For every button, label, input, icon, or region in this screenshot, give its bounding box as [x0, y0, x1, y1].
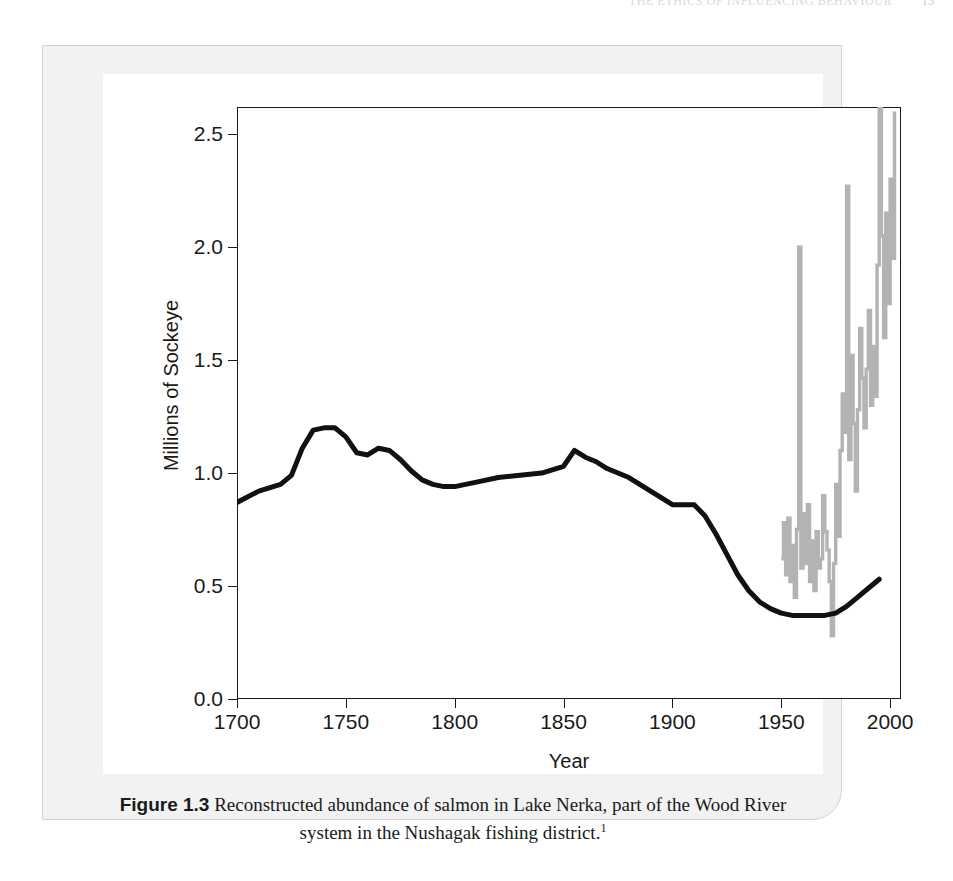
figure-caption-text: Reconstructed abundance of salmon in Lak…	[214, 794, 786, 843]
figure-caption: Figure 1.3 Reconstructed abundance of sa…	[103, 791, 803, 846]
plot-card: Millions of Sockeye Year 0.00.51.01.52.0…	[103, 74, 823, 774]
running-head: THE ETHICS OF INFLUENCING BEHAVIOUR 13	[0, 0, 953, 12]
footnote-marker: 1	[600, 820, 606, 834]
salmon-abundance-chart: Millions of Sockeye Year 0.00.51.01.52.0…	[103, 74, 903, 774]
chart-plot-area	[103, 74, 903, 774]
figure-label: Figure 1.3	[120, 794, 210, 815]
running-head-title: THE ETHICS OF INFLUENCING BEHAVIOUR	[629, 0, 892, 8]
series-observed-annual-run	[781, 89, 894, 636]
page-number: 13	[922, 0, 935, 8]
figure-panel: Millions of Sockeye Year 0.00.51.01.52.0…	[42, 45, 842, 820]
